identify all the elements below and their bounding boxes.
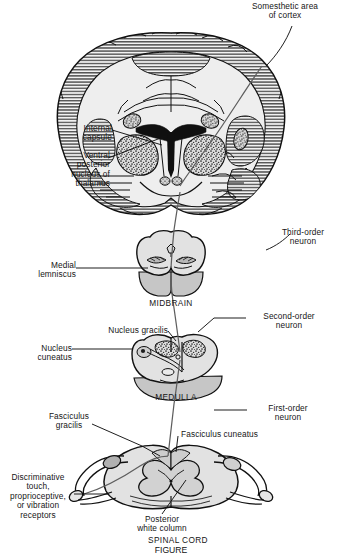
nucleus-cuneatus: [183, 340, 205, 357]
label-fasciculus-gracilis: Fasciculus gracilis: [42, 412, 96, 431]
nucleus-core-dot: [141, 349, 145, 353]
label-somesthetic-area-of-cortex: Somesthetic area of cortex: [233, 2, 337, 21]
label-nucleus-cuneatus: Nucleus cuneatus: [16, 344, 72, 363]
label-nucleus-gracilis: Nucleus gracilis: [76, 326, 168, 335]
label-internal-capsule: Internal capsule: [60, 124, 112, 143]
medulla-top-surface: [132, 335, 217, 384]
label-fasciculus-cuneatus: Fasciculus cuneatus: [181, 430, 291, 439]
central-canal-medulla: [176, 355, 180, 359]
label-medial-lemniscus: Medial lemniscus: [22, 261, 76, 280]
peripheral-nerve-end-right: [258, 489, 275, 504]
label-posterior-white-column: Posterior white column: [122, 515, 202, 534]
figure-canvas: Somesthetic area of cortex Internal caps…: [0, 0, 342, 553]
nucleus-gracilis: [155, 341, 178, 357]
ventral-posterior-nucleus-right: [172, 177, 182, 185]
label-ventral-posterior-nucleus-of-thalamus: Ventral posterior nucleus of thalamus: [48, 151, 110, 189]
medulla-section: [132, 335, 222, 401]
spinal-cord-section: [68, 445, 275, 508]
ventral-posterior-nucleus-left: [160, 177, 170, 185]
leader-second-order: [198, 318, 246, 332]
leader-somesthetic: [266, 26, 292, 66]
label-receptors: Discriminative touch, proprioceptive, or…: [0, 473, 76, 520]
inferior-olive: [162, 369, 174, 376]
label-first-order-neuron: First-order neuron: [250, 404, 326, 423]
figure-caption: FIGURE: [0, 545, 342, 553]
label-midbrain: MIDBRAIN: [134, 299, 208, 308]
label-third-order-neuron: Third-order neuron: [267, 228, 339, 247]
label-second-order-neuron: Second-order neuron: [248, 312, 330, 331]
label-spinal-cord: SPINAL CORD: [130, 536, 226, 545]
central-canal-cord: [169, 479, 172, 482]
label-medulla: MEDULLA: [140, 393, 212, 402]
